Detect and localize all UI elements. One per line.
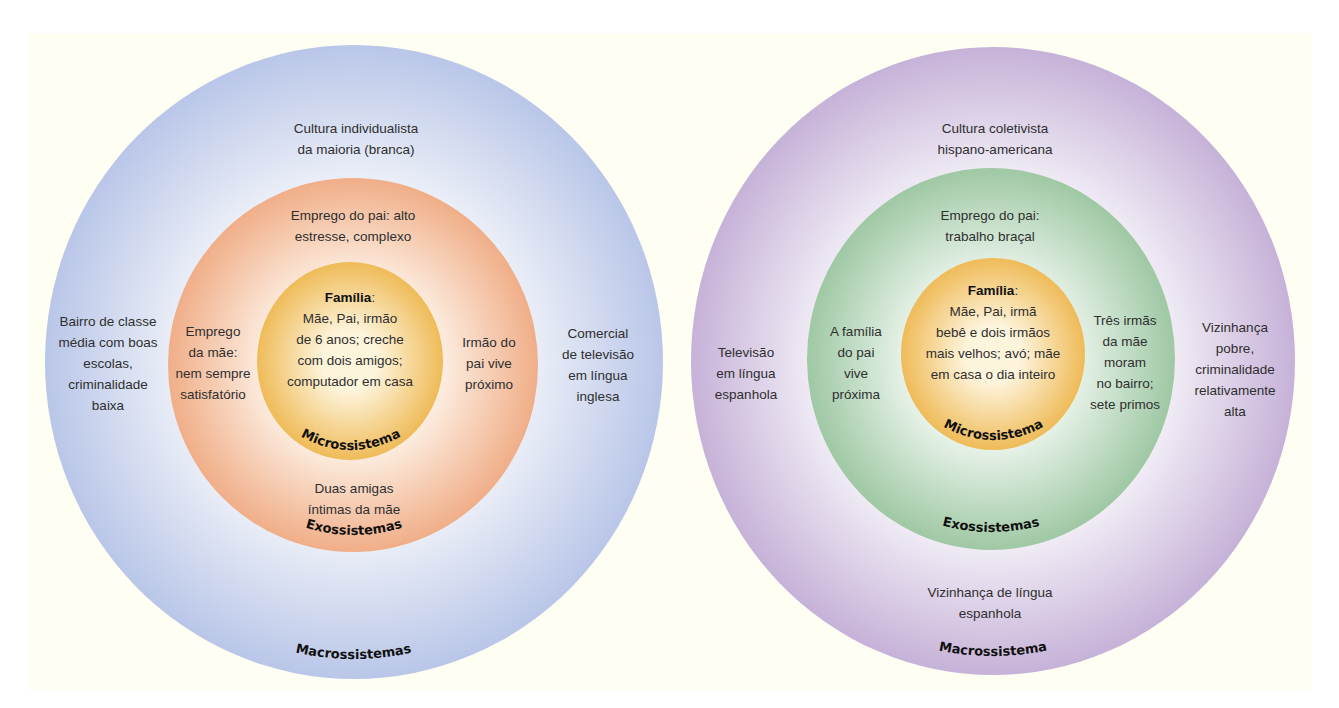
left-family-text: Mãe, Pai, irmão de 6 anos; creche com do… <box>287 308 413 392</box>
left-macro-left-text: Bairro de classe média com boas escolas,… <box>58 311 157 416</box>
left-family-block: Família: <box>325 287 375 308</box>
right-exo-left-text: A família do pai vive próxima <box>830 321 882 405</box>
right-family-colon: : <box>1014 283 1018 298</box>
left-macro-top-text: Cultura individualista da maioria (branc… <box>294 118 419 160</box>
left-exo-bottom-text: Duas amigas íntimas da mãe <box>308 478 400 520</box>
left-exo-top-text: Emprego do pai: alto estresse, complexo <box>291 205 416 247</box>
right-family-block: Família: <box>968 280 1018 301</box>
left-family-colon: : <box>371 290 375 305</box>
left-macro-right-text: Comercial de televisão em língua inglesa <box>562 323 634 407</box>
right-family-text: Mãe, Pai, irmã bebê e dois irmãos mais v… <box>926 301 1060 385</box>
right-macro-bottom-text: Vizinhança de língua espanhola <box>927 582 1052 624</box>
left-exo-right-text: Irmão do pai vive próximo <box>462 332 515 395</box>
right-exo-right-text: Três irmãs da mãe moram no bairro; sete … <box>1090 310 1160 415</box>
right-macro-top-text: Cultura coletivista hispano-americana <box>938 118 1053 160</box>
right-exo-top-text: Emprego do pai: trabalho braçal <box>940 205 1039 247</box>
left-exo-left-text: Emprego da mãe: nem sempre satisfatório <box>175 321 250 405</box>
right-macro-left-text: Televisão em língua espanhola <box>715 342 777 405</box>
right-macro-right-text: Vizinhança pobre, criminalidade relativa… <box>1194 317 1275 422</box>
right-family-title: Família <box>968 283 1015 298</box>
left-family-title: Família <box>325 290 372 305</box>
